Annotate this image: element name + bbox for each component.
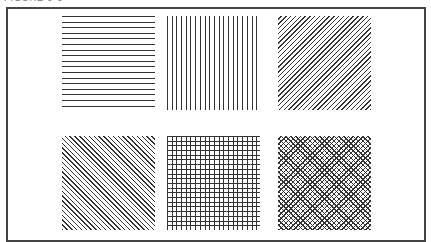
figure-frame bbox=[6, 7, 426, 242]
diagonal-rising-lines-pattern bbox=[278, 16, 371, 110]
figure-caption: FIGURE 9-9 bbox=[4, 0, 64, 3]
diagonal-crosshatch-pattern bbox=[278, 136, 371, 230]
horizontal-lines-pattern bbox=[62, 16, 155, 110]
diagonal-falling-lines-pattern bbox=[62, 136, 155, 230]
square-grid-pattern bbox=[167, 136, 260, 230]
vertical-lines-pattern bbox=[167, 16, 260, 110]
